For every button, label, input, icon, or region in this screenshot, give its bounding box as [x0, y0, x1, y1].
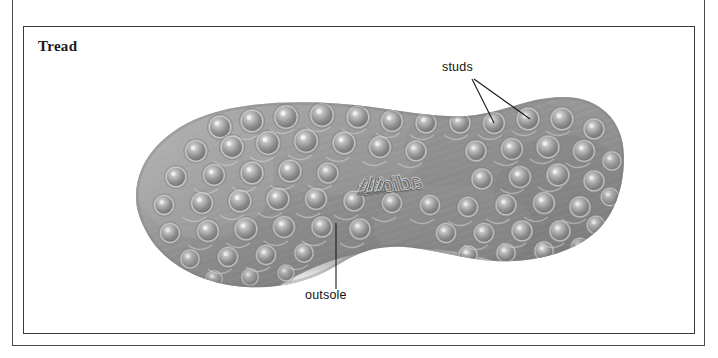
stud-callout-b — [515, 106, 541, 132]
figure-box: Tread — [23, 26, 695, 334]
annotation-label-outsole: outsole — [305, 288, 347, 302]
annotation-label-studs: studs — [442, 60, 473, 74]
figure-page: Tread — [0, 0, 718, 358]
outsole-body: adidas adidas — [124, 82, 644, 327]
outsole-illustration: adidas adidas — [24, 27, 695, 334]
stud-outsole-anchor — [348, 217, 372, 241]
outsole-photograph: adidas adidas — [24, 27, 695, 334]
